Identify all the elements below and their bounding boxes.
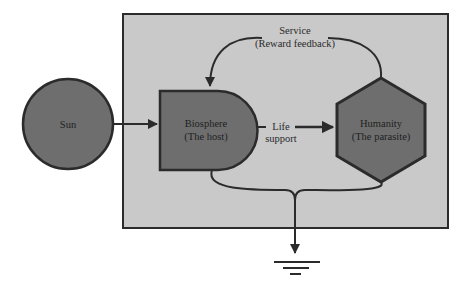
humanity-label-line2: (The parasite): [352, 131, 411, 143]
biosphere-label-line1: Biosphere: [185, 118, 228, 129]
diagram-canvas: Sun Biosphere (The host) Life support Hu…: [0, 0, 458, 288]
ground-sink-icon: [274, 262, 320, 274]
service-label-line1: Service: [279, 25, 311, 36]
service-label-line2: (Reward feedback): [255, 38, 336, 50]
biosphere-node: Biosphere (The host): [160, 91, 258, 170]
life-support-label-line1: Life: [272, 121, 290, 132]
biosphere-label-line2: (The host): [184, 131, 228, 143]
sun-label: Sun: [60, 119, 77, 130]
life-support-label-line2: support: [265, 133, 297, 144]
humanity-label-line1: Humanity: [360, 118, 403, 129]
sun-node: Sun: [23, 79, 113, 169]
